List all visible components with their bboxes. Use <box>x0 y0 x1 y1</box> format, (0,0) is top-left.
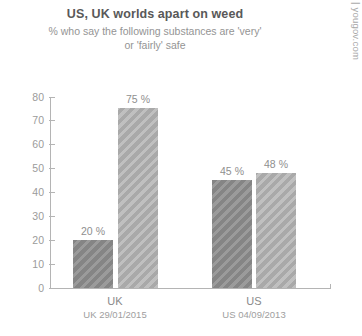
bar-us-light[interactable]: 48 % <box>256 173 296 288</box>
y-tick-label-0: 0 <box>38 282 44 294</box>
chart-subtitle-line-1: % who say the following substances are '… <box>0 24 310 38</box>
chart-title: US, UK worlds apart on weed <box>0 6 310 22</box>
y-tick-mark-70 <box>49 120 55 121</box>
bar-value-uk-dark: 20 % <box>81 225 105 237</box>
x-group-name-us: US <box>222 294 285 308</box>
y-tick-mark-50 <box>49 168 55 169</box>
y-tick-label-10: 10 <box>32 258 44 270</box>
chart-subtitle: % who say the following substances are '… <box>0 24 310 52</box>
y-tick-mark-0 <box>49 288 55 289</box>
y-tick-label-20: 20 <box>32 234 44 246</box>
y-tick-mark-30 <box>49 216 55 217</box>
x-group-sub-uk: UK 29/01/2015 <box>83 308 146 321</box>
y-axis-line <box>50 97 51 289</box>
x-group-name-uk: UK <box>83 294 146 308</box>
plot-area: 0 10 20 30 40 50 60 70 <box>50 97 331 289</box>
y-tick-label-80: 80 <box>32 91 44 103</box>
chart-header: US, UK worlds apart on weed % who say th… <box>0 6 310 52</box>
y-tick-label-30: 30 <box>32 210 44 222</box>
x-group-label-us: US US 04/09/2013 <box>222 294 285 321</box>
y-tick-label-60: 60 <box>32 138 44 150</box>
y-tick-mark-10 <box>49 264 55 265</box>
x-group-label-uk: UK UK 29/01/2015 <box>83 294 146 321</box>
x-group-sub-us: US 04/09/2013 <box>222 308 285 321</box>
bar-value-uk-light: 75 % <box>126 93 150 105</box>
y-tick-label-40: 40 <box>32 186 44 198</box>
y-tick-mark-40 <box>49 192 55 193</box>
y-tick-mark-80 <box>49 97 55 98</box>
y-tick-mark-60 <box>49 144 55 145</box>
chart-subtitle-line-2: or 'fairly' safe <box>0 38 310 52</box>
source-note: Source: YouGov | yougov.com <box>351 0 362 60</box>
bar-us-dark[interactable]: 45 % <box>212 180 252 288</box>
x-axis-end-tick <box>330 284 331 289</box>
y-tick-label-70: 70 <box>32 114 44 126</box>
bar-value-us-light: 48 % <box>264 158 288 170</box>
y-tick-mark-20 <box>49 240 55 241</box>
bar-uk-dark[interactable]: 20 % <box>73 240 113 288</box>
y-tick-label-50: 50 <box>32 162 44 174</box>
bar-uk-light[interactable]: 75 % <box>118 108 158 288</box>
bar-value-us-dark: 45 % <box>220 165 244 177</box>
x-axis-line <box>50 288 331 289</box>
